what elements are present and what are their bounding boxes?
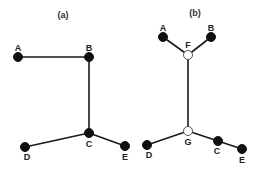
node-E-filled — [238, 145, 247, 154]
node-A-filled — [14, 53, 23, 62]
node-label-B: B — [86, 43, 93, 53]
node-label-A: A — [160, 23, 167, 33]
node-label-F: F — [185, 40, 191, 50]
node-label-E: E — [122, 152, 128, 162]
node-D-filled — [21, 143, 30, 152]
node-B-filled — [85, 53, 94, 62]
node-B-filled — [207, 33, 216, 42]
node-label-D: D — [146, 150, 153, 160]
node-label-D: D — [24, 152, 31, 162]
node-E-filled — [121, 142, 130, 151]
node-F-hollow — [184, 51, 193, 60]
node-C-filled — [214, 137, 223, 146]
node-G-hollow — [184, 127, 193, 136]
node-D-filled — [143, 141, 152, 150]
panel-title: (b) — [189, 8, 201, 18]
node-C-filled — [85, 129, 94, 138]
node-label-C: C — [86, 139, 93, 149]
panel-a: (a)ABCDE — [14, 10, 130, 162]
node-label-C: C — [214, 146, 221, 156]
node-label-E: E — [239, 155, 245, 165]
node-A-filled — [159, 33, 168, 42]
panel-b: (b)ABFGDCE — [143, 8, 247, 165]
node-label-G: G — [184, 137, 191, 147]
tree-diagram: (a)ABCDE (b)ABFGDCE — [0, 0, 260, 173]
node-label-B: B — [208, 23, 215, 33]
edge-C-E — [89, 133, 125, 146]
edge-C-D — [25, 133, 89, 147]
edge-G-D — [147, 131, 188, 145]
panel-title: (a) — [58, 10, 69, 20]
node-label-A: A — [15, 43, 22, 53]
